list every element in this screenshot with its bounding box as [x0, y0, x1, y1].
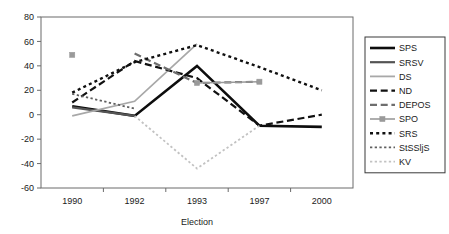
- legend-label-srsv: SRSV: [399, 58, 424, 68]
- y-tick-label: -20: [21, 134, 34, 144]
- legend-label-kv: KV: [399, 157, 411, 167]
- legend-label-stssljs: StSSljS: [399, 143, 430, 153]
- legend-marker-spo: [380, 116, 385, 121]
- series-lines: [70, 44, 322, 169]
- y-axis-ticks: 806040200-20-40-60: [21, 12, 41, 193]
- legend-label-spo: SPO: [399, 114, 418, 124]
- series-nd: [72, 61, 322, 126]
- legend: SPSSRSVDSNDDEPOSSPOSRSStSSljSKV: [365, 37, 445, 173]
- chart-screenshot: 806040200-20-40-60 19901992199319972000 …: [0, 0, 449, 234]
- y-tick-label: 60: [24, 37, 34, 47]
- series-kv: [135, 116, 260, 169]
- y-tick-label: 0: [29, 110, 34, 120]
- y-tick-label: -40: [21, 159, 34, 169]
- legend-label-srs: SRS: [399, 129, 418, 139]
- x-tick-label: 2000: [312, 196, 332, 206]
- series-sps: [72, 66, 322, 127]
- x-tick-label: 1992: [125, 196, 145, 206]
- y-tick-label: -60: [21, 183, 34, 193]
- legend-label-depos: DEPOS: [399, 100, 431, 110]
- y-tick-label: 80: [24, 12, 34, 22]
- legend-label-sps: SPS: [399, 43, 417, 53]
- y-tick-label: 40: [24, 61, 34, 71]
- line-chart: 806040200-20-40-60 19901992199319972000 …: [0, 0, 449, 234]
- x-axis-title: Election: [181, 217, 213, 227]
- legend-label-ds: DS: [399, 72, 412, 82]
- x-axis-ticks: 19901992199319972000: [62, 188, 332, 206]
- plot-frame: [41, 17, 353, 188]
- x-tick-label: 1997: [249, 196, 269, 206]
- x-tick-label: 1990: [62, 196, 82, 206]
- y-tick-label: 20: [24, 85, 34, 95]
- x-tick-label: 1993: [187, 196, 207, 206]
- legend-label-nd: ND: [399, 86, 412, 96]
